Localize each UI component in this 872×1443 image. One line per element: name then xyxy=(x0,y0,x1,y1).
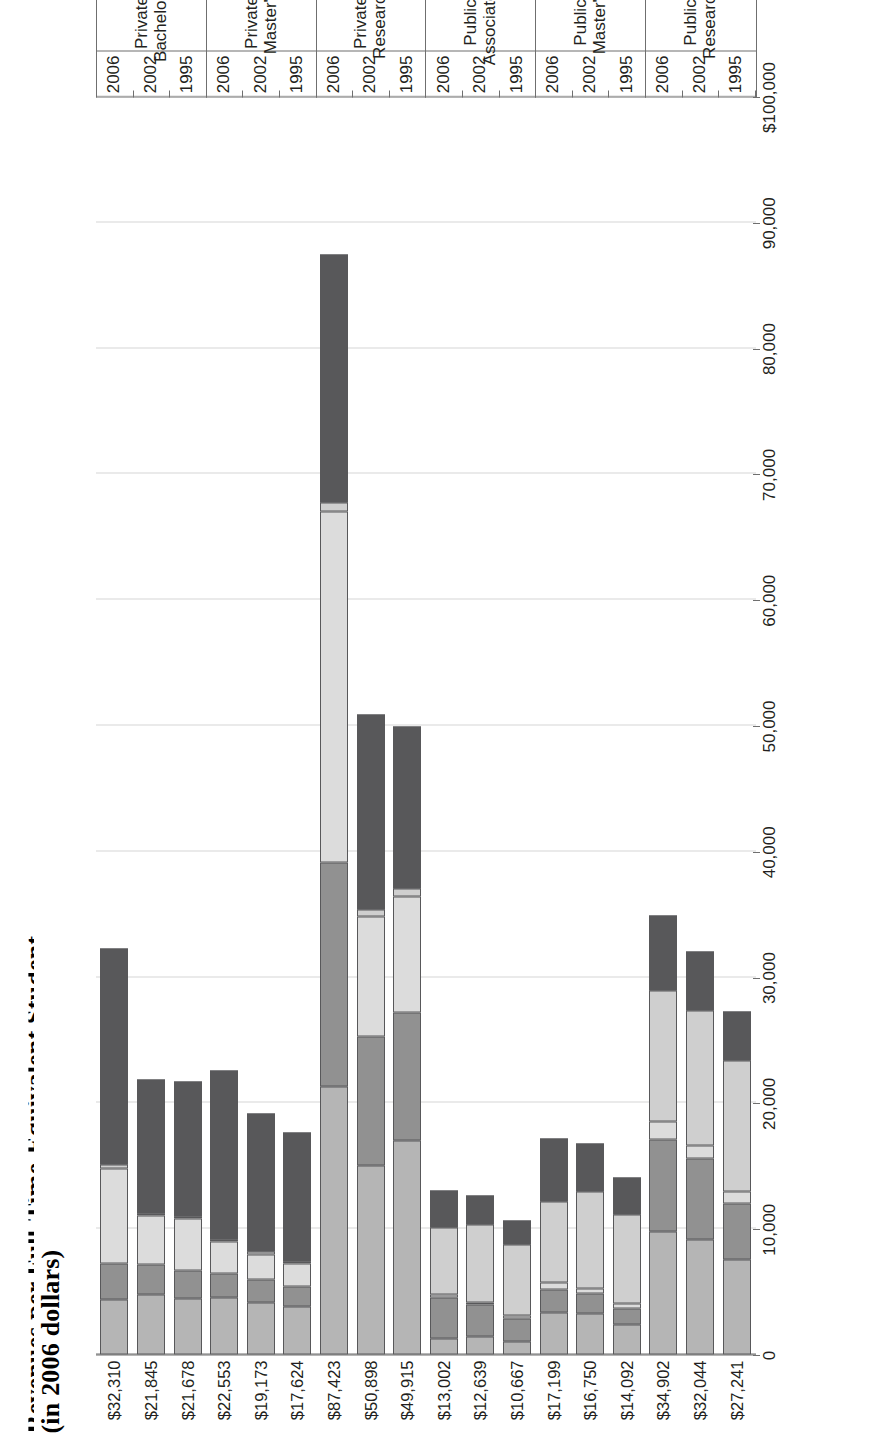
bar-segment xyxy=(320,502,348,511)
axis-tick-label: 90,000 xyxy=(760,197,780,249)
bar-segment xyxy=(247,1254,275,1279)
category-group-label: Private Master's xyxy=(206,0,316,53)
bar-row[interactable]: $16,750 xyxy=(576,1143,604,1354)
category-tick-label: 2002 xyxy=(572,55,609,93)
bar-row[interactable]: $87,423 xyxy=(320,254,348,1354)
bar-segment xyxy=(430,1227,458,1294)
axis-tick-label: 40,000 xyxy=(760,826,780,878)
bar-segment xyxy=(100,1168,128,1264)
category-tick-label: 2006 xyxy=(206,55,243,93)
axis-tick-mark xyxy=(753,222,760,223)
bar-segment xyxy=(320,1086,348,1354)
bar-segment xyxy=(283,1306,311,1354)
bar-value-label: $17,199 xyxy=(544,1360,563,1420)
bar-segment xyxy=(247,1113,275,1251)
bar-row[interactable]: $34,902 xyxy=(649,915,677,1354)
category-tick-label: 1995 xyxy=(279,55,316,93)
bar-value-label: $10,667 xyxy=(507,1360,526,1420)
gridline xyxy=(96,221,756,222)
bar-row[interactable]: $49,915 xyxy=(393,726,421,1354)
bar-segment xyxy=(540,1289,568,1313)
axis-tick-mark xyxy=(753,1103,760,1104)
category-tick-label: 2006 xyxy=(425,55,462,93)
gridline xyxy=(96,850,756,851)
bar-row[interactable]: $14,092 xyxy=(613,1177,641,1354)
bar-segment xyxy=(100,1164,128,1168)
category-axis: Private Bachelor's200620021995Private Ma… xyxy=(96,0,756,97)
axis-tick-label: 0 xyxy=(760,1350,780,1359)
bar-segment xyxy=(503,1318,531,1341)
bar-segment xyxy=(649,1231,677,1354)
bar-segment xyxy=(686,1158,714,1239)
bar-row[interactable]: $19,173 xyxy=(247,1113,275,1354)
bar-row[interactable]: $12,639 xyxy=(466,1195,494,1354)
bar-segment xyxy=(100,948,128,1164)
bar-segment xyxy=(540,1313,568,1355)
plot-region: $32,310$21,845$21,678$22,553$19,173$17,6… xyxy=(96,97,756,1355)
bar-segment xyxy=(613,1215,641,1303)
bar-segment xyxy=(466,1336,494,1354)
category-group-label: Private Research xyxy=(316,0,426,53)
bar-segment xyxy=(686,951,714,1010)
bar-value-label: $22,553 xyxy=(215,1360,234,1420)
bar-segment xyxy=(686,1010,714,1145)
bar-segment xyxy=(357,909,385,917)
bar-segment xyxy=(174,1218,202,1270)
bar-row[interactable]: $32,310 xyxy=(100,948,128,1354)
bar-row[interactable]: $21,845 xyxy=(137,1079,165,1354)
bar-value-label: $27,241 xyxy=(727,1360,746,1420)
title-line-2: (in 2006 dollars) xyxy=(36,733,67,1433)
bar-segment xyxy=(320,511,348,862)
axis-tick-label: 50,000 xyxy=(760,700,780,752)
axis-tick-mark xyxy=(753,851,760,852)
bar-segment xyxy=(137,1294,165,1354)
category-tick-label: 2006 xyxy=(535,55,572,93)
bar-segment xyxy=(247,1279,275,1302)
bar-row[interactable]: $32,044 xyxy=(686,951,714,1354)
bar-segment xyxy=(174,1081,202,1216)
category-tick-label: 2006 xyxy=(316,55,353,93)
bar-row[interactable]: $17,624 xyxy=(283,1132,311,1354)
bar-segment xyxy=(613,1303,641,1308)
bar-segment xyxy=(357,1036,385,1166)
bar-segment xyxy=(357,714,385,909)
bar-segment xyxy=(430,1338,458,1354)
title-line-1: Revenues per Full-Time-Equivalent Studen… xyxy=(20,733,34,1433)
bar-value-label: $13,002 xyxy=(434,1360,453,1420)
bar-value-label: $50,898 xyxy=(361,1360,380,1420)
bar-segment xyxy=(466,1224,494,1302)
bar-segment xyxy=(174,1298,202,1354)
bar-value-label: $21,678 xyxy=(178,1360,197,1420)
gridline xyxy=(96,347,756,348)
bar-segment xyxy=(430,1190,458,1226)
bar-segment xyxy=(723,1259,751,1354)
bar-segment xyxy=(576,1288,604,1293)
bar-value-label: $12,639 xyxy=(471,1360,490,1420)
value-axis: 010,00020,00030,00040,00050,00060,00070,… xyxy=(760,97,830,1355)
bar-row[interactable]: $50,898 xyxy=(357,714,385,1354)
bar-segment xyxy=(430,1294,458,1298)
bar-value-label: $14,092 xyxy=(617,1360,636,1420)
bar-segment xyxy=(540,1282,568,1288)
bar-row[interactable]: $21,678 xyxy=(174,1081,202,1354)
bar-row[interactable]: $17,199 xyxy=(540,1138,568,1354)
gridline xyxy=(96,598,756,599)
bar-segment xyxy=(576,1313,604,1354)
axis-tick-label: $100,000 xyxy=(760,62,780,133)
bar-row[interactable]: $22,553 xyxy=(210,1070,238,1354)
bar-row[interactable]: $13,002 xyxy=(430,1190,458,1354)
bar-segment xyxy=(100,1299,128,1354)
bar-segment xyxy=(393,726,421,888)
bar-segment xyxy=(283,1286,311,1306)
category-tick-label: 2006 xyxy=(96,55,133,93)
bar-value-label: $49,915 xyxy=(398,1360,417,1420)
bar-segment xyxy=(174,1270,202,1298)
bar-row[interactable]: $10,667 xyxy=(503,1220,531,1354)
bar-segment xyxy=(649,915,677,990)
category-tick-label: 2002 xyxy=(242,55,279,93)
bar-segment xyxy=(210,1297,238,1354)
category-tick-label: 2002 xyxy=(133,55,170,93)
axis-tick-label: 20,000 xyxy=(760,1077,780,1129)
bar-row[interactable]: $27,241 xyxy=(723,1011,751,1354)
category-tick-label: 1995 xyxy=(389,55,426,93)
